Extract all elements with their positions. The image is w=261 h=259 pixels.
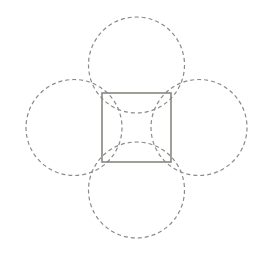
circle-right bbox=[151, 80, 247, 176]
circle-top bbox=[89, 17, 185, 113]
circle-bottom bbox=[89, 142, 185, 238]
dashed-circles bbox=[26, 17, 247, 238]
square bbox=[102, 93, 171, 162]
geometry-diagram bbox=[0, 0, 261, 259]
circle-left bbox=[26, 80, 122, 176]
